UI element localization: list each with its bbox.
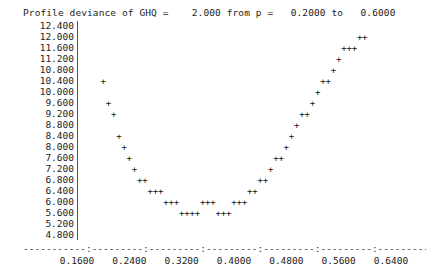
y-axis-tick-label: 8.400 — [24, 130, 74, 141]
data-point: + — [361, 33, 368, 42]
profile-deviance-plot: Profile deviance of GHQ = 2.000 from p =… — [0, 0, 426, 279]
data-point: + — [100, 77, 107, 86]
data-point: + — [126, 154, 133, 163]
data-point: + — [110, 110, 117, 119]
y-axis-tick-label: 10.000 — [24, 86, 74, 97]
data-point: + — [267, 165, 274, 174]
x-axis-tick-label: 0.4800 — [269, 255, 303, 267]
y-axis-tick-labels: 12.40012.00011.60011.20010.80010.40010.0… — [24, 20, 74, 240]
data-point: + — [194, 209, 201, 218]
data-point: + — [115, 132, 122, 141]
data-point: + — [142, 176, 149, 185]
data-point: + — [325, 77, 332, 86]
plot-title: Profile deviance of GHQ = 2.000 from p =… — [23, 7, 395, 18]
y-axis-tick-label: 6.400 — [24, 185, 74, 196]
y-axis-tick-label: 6.000 — [24, 196, 74, 207]
data-point: + — [330, 66, 337, 75]
data-point: + — [105, 99, 112, 108]
y-axis-tick-label: 11.200 — [24, 53, 74, 64]
y-axis-tick-label: 6.800 — [24, 174, 74, 185]
y-axis-tick-label: 10.800 — [24, 64, 74, 75]
x-axis-tick-label: 0.1600 — [60, 255, 94, 267]
y-axis-tick-label: 5.200 — [24, 218, 74, 229]
data-point: + — [309, 99, 316, 108]
x-axis-tick-labels: 0.16000.24000.32000.40000.48000.56000.64… — [23, 255, 423, 267]
y-axis-tick-label: 10.400 — [24, 75, 74, 86]
data-point: + — [262, 176, 269, 185]
data-point: + — [335, 55, 342, 64]
data-point: + — [241, 198, 248, 207]
plot-area: ++++++++++++++++++++++++++++++++++++++++… — [77, 21, 391, 240]
data-point: + — [293, 121, 300, 130]
data-point: + — [278, 154, 285, 163]
y-axis-tick-label: 12.400 — [24, 20, 74, 31]
data-point: + — [210, 198, 217, 207]
x-axis-tick-label: 0.6400 — [374, 255, 408, 267]
data-point: + — [225, 209, 232, 218]
y-axis-tick-label: 7.600 — [24, 152, 74, 163]
y-axis-tick-label: 11.600 — [24, 42, 74, 53]
data-point: + — [351, 44, 358, 53]
x-axis-tick-label: 0.3200 — [164, 255, 198, 267]
y-axis-tick-label: 8.800 — [24, 119, 74, 130]
data-point: + — [314, 88, 321, 97]
x-axis-line: -----------:---------:---------:--------… — [23, 243, 403, 254]
y-axis-tick-label: 4.800 — [24, 229, 74, 240]
data-point: + — [251, 187, 258, 196]
data-point: + — [288, 132, 295, 141]
x-axis-tick-label: 0.2400 — [112, 255, 146, 267]
y-axis-tick-label: 7.200 — [24, 163, 74, 174]
data-point: + — [121, 143, 128, 152]
data-point: + — [283, 143, 290, 152]
y-axis-tick-label: 8.000 — [24, 141, 74, 152]
data-point: + — [173, 198, 180, 207]
x-axis-tick-label: 0.4000 — [217, 255, 251, 267]
data-point: + — [304, 110, 311, 119]
data-point: + — [131, 165, 138, 174]
data-point: + — [157, 187, 164, 196]
y-axis-tick-label: 5.600 — [24, 207, 74, 218]
y-axis-tick-label: 9.200 — [24, 108, 74, 119]
y-axis-tick-label: 12.000 — [24, 31, 74, 42]
x-axis-tick-label: 0.5600 — [321, 255, 355, 267]
y-axis-tick-label: 9.600 — [24, 97, 74, 108]
